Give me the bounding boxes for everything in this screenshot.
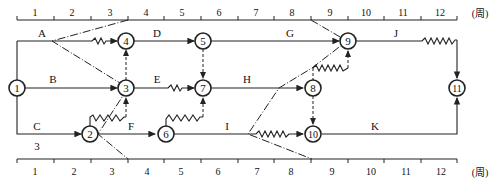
node-7: 7 <box>195 80 211 96</box>
bottom-tick-7: 7 <box>255 166 260 177</box>
label-G: G <box>286 27 294 39</box>
svg-text:2: 2 <box>87 128 93 140</box>
dummy-2-3-float <box>90 115 126 126</box>
svg-text:8: 8 <box>310 82 316 94</box>
activity-C <box>17 96 81 134</box>
bottom-tick-4: 4 <box>145 166 150 177</box>
activity-I <box>174 131 303 137</box>
label-E: E <box>154 73 161 85</box>
svg-text:6: 6 <box>163 128 169 140</box>
node-2: 2 <box>82 126 98 142</box>
bottom-tick-10: 10 <box>366 166 376 177</box>
top-tick-7: 7 <box>254 7 259 18</box>
top-tick-12: 12 <box>435 7 445 18</box>
label-A: A <box>38 27 46 39</box>
top-tick-5: 5 <box>180 7 185 18</box>
top-tick-9: 9 <box>328 7 333 18</box>
bottom-unit-label: (周) <box>472 167 489 179</box>
label-I: I <box>225 120 229 132</box>
svg-text:1: 1 <box>14 82 20 94</box>
svg-text:7: 7 <box>200 82 206 94</box>
bottom-tick-8: 8 <box>289 166 294 177</box>
label-B: B <box>49 73 56 85</box>
dummy-8-9-float <box>313 65 348 71</box>
node-11: 11 <box>449 80 465 96</box>
node-4: 4 <box>118 33 134 49</box>
top-tick-1: 1 <box>33 7 38 18</box>
svg-text:11: 11 <box>452 83 462 94</box>
bottom-tick-3: 3 <box>110 166 115 177</box>
label-C: C <box>33 120 40 132</box>
bottom-tick-2: 2 <box>72 166 77 177</box>
node-1: 1 <box>9 80 25 96</box>
bottom-tick-5: 5 <box>179 166 184 177</box>
svg-text:3: 3 <box>123 82 129 94</box>
label-F: F <box>128 120 134 132</box>
node-9: 9 <box>340 33 356 49</box>
top-tick-6: 6 <box>217 7 222 18</box>
label-D: D <box>153 27 161 39</box>
activity-J <box>356 38 457 44</box>
top-tick-10: 10 <box>361 7 371 18</box>
label-C-note: 3 <box>34 140 40 152</box>
bottom-tick-6: 6 <box>216 166 221 177</box>
top-tick-8: 8 <box>290 7 295 18</box>
svg-text:5: 5 <box>200 35 206 47</box>
node-6: 6 <box>158 126 174 142</box>
node-8: 8 <box>305 80 321 96</box>
svg-text:9: 9 <box>345 35 351 47</box>
top-time-scale: 1 2 3 4 5 6 7 8 9 10 11 12 (周) <box>17 7 488 20</box>
node-10: 10 <box>305 126 321 142</box>
svg-text:4: 4 <box>123 35 129 47</box>
top-unit-label: (周) <box>472 8 489 20</box>
bottom-tick-1: 1 <box>33 166 38 177</box>
svg-text:10: 10 <box>308 129 318 140</box>
activity-E <box>134 85 194 91</box>
bottom-tick-12: 12 <box>436 166 446 177</box>
node-3: 3 <box>118 80 134 96</box>
label-K: K <box>371 120 379 132</box>
top-tick-11: 11 <box>398 7 408 18</box>
top-tick-3: 3 <box>108 7 113 18</box>
label-J: J <box>394 27 399 39</box>
dummy-6-7-float <box>166 115 203 126</box>
label-H: H <box>243 73 251 85</box>
bottom-time-scale: 1 2 3 4 5 6 7 8 9 10 11 12 (周) <box>17 159 488 179</box>
activity-K <box>322 98 457 134</box>
top-tick-2: 2 <box>70 7 75 18</box>
top-tick-4: 4 <box>144 7 149 18</box>
activity-A-float <box>92 38 117 44</box>
bottom-tick-11: 11 <box>401 166 411 177</box>
network-diagram: 1 2 3 4 5 6 7 8 9 10 11 12 (周) 1 2 3 4 5… <box>0 0 495 188</box>
node-5: 5 <box>195 33 211 49</box>
bottom-tick-9: 9 <box>330 166 335 177</box>
